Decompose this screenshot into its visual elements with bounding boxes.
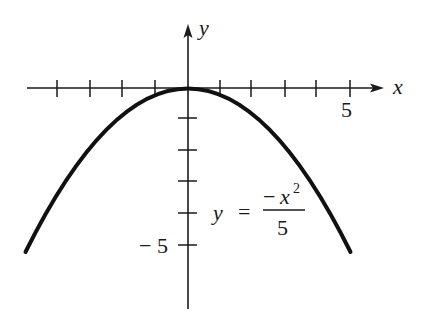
x-axis-label: x [392, 74, 403, 99]
y-tick-label-neg5: − 5 [139, 233, 168, 258]
y-axis-label: y [197, 15, 209, 40]
equation-equals: = [238, 199, 250, 224]
equation-lhs: y [211, 200, 223, 225]
equation-annotation: y = − x 2 5 [211, 181, 305, 240]
equation-numerator-minus: − [263, 184, 275, 209]
equation-numerator-variable: x [279, 184, 290, 209]
equation-denominator: 5 [277, 215, 288, 240]
parabola-chart: x y 5 − 5 y = − x 2 5 [0, 0, 423, 317]
x-tick-label-5: 5 [341, 97, 352, 122]
y-axis [184, 24, 193, 309]
equation-numerator-exponent: 2 [293, 181, 300, 196]
